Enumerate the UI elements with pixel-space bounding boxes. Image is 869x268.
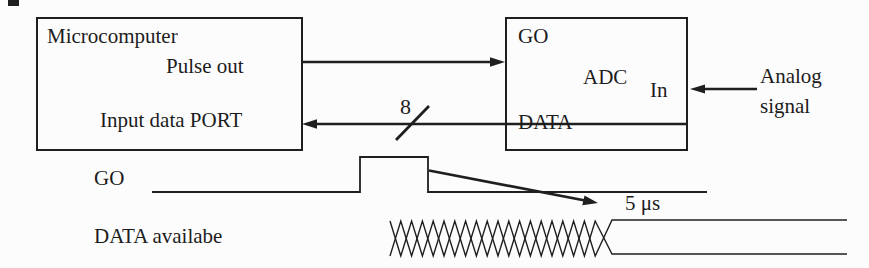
adc-data-pin-label: DATA <box>518 110 572 134</box>
adc-in-pin-label: In <box>650 78 668 102</box>
data-waveform <box>390 220 847 256</box>
data-available-label: DATA availabe <box>94 224 222 248</box>
go-signal-label: GO <box>94 166 124 190</box>
pulse-out-arrow <box>303 57 505 67</box>
delay-time-label: 5 μs <box>625 191 660 215</box>
go-waveform <box>152 157 707 192</box>
analog-signal-label: Analog signal <box>760 61 822 121</box>
delay-arrow <box>429 171 598 206</box>
analog-signal-line1: Analog <box>760 61 822 91</box>
microcomputer-title: Microcomputer <box>47 24 178 48</box>
analog-signal-line2: signal <box>760 91 822 121</box>
figure-canvas: Microcomputer Pulse out Input data PORT … <box>0 0 869 268</box>
arrow-right-head <box>490 57 505 67</box>
data-hatch-zigzag-b <box>390 221 847 256</box>
adc-title: ADC <box>583 65 627 89</box>
pulse-out-label: Pulse out <box>166 54 244 78</box>
arrow-left-head <box>690 85 705 94</box>
adc-go-pin-label: GO <box>518 24 548 48</box>
scan-artifact <box>8 0 19 6</box>
arrow-left-head <box>302 119 317 129</box>
analog-signal-arrow <box>690 85 757 94</box>
data-hatch-zigzag-a <box>390 220 847 256</box>
input-data-port-label: Input data PORT <box>100 108 242 132</box>
arrow-diagonal-head <box>582 195 598 205</box>
bus-width-label: 8 <box>400 95 411 119</box>
